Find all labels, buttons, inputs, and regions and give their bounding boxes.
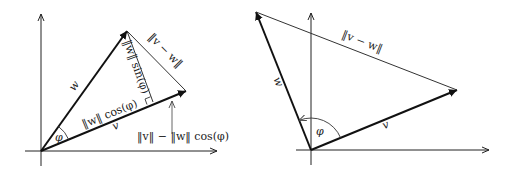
left-label-w: w xyxy=(66,78,82,94)
left-diagram: w v ‖v − w‖ ‖w‖ sin(φ) ‖w‖ cos(φ) φ ‖v‖ … xyxy=(25,14,229,166)
left-label-v-minus-wcos: ‖v‖ − ‖w‖ cos(φ) xyxy=(137,130,229,144)
left-label-v: v xyxy=(110,118,121,133)
right-angle-mark xyxy=(145,97,151,105)
right-label-phi: φ xyxy=(316,125,324,138)
left-label-w-sin: ‖w‖ sin(φ) xyxy=(120,38,152,96)
left-label-v-minus-w: ‖v − w‖ xyxy=(145,31,185,71)
vector-diagrams: w v ‖v − w‖ ‖w‖ sin(φ) ‖w‖ cos(φ) φ ‖v‖ … xyxy=(0,0,508,177)
right-label-w: w xyxy=(270,75,286,89)
right-diagram: w v ‖v − w‖ φ xyxy=(256,12,489,165)
right-line-v-minus-w xyxy=(256,12,457,90)
right-label-v-minus-w: ‖v − w‖ xyxy=(340,28,385,56)
left-label-phi: φ xyxy=(55,131,63,144)
right-label-v: v xyxy=(380,117,391,132)
